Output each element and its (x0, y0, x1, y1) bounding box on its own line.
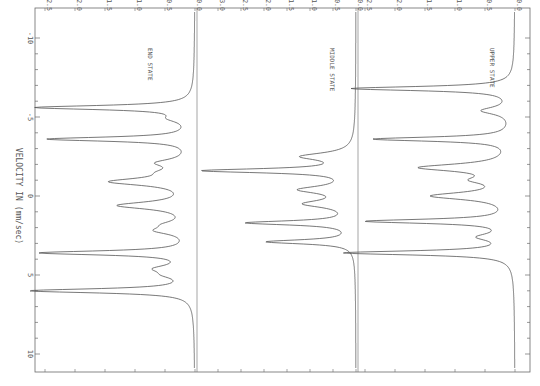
intensity-tick-label: 0.5 (333, 0, 341, 11)
panel-label: MIDDLE STATE (329, 48, 336, 92)
panel-upper-state: 0.00.51.01.52.02.5UPPER STATE (343, 0, 523, 372)
plot-frame (35, 8, 530, 372)
intensity-tick-label: 0.0 (356, 0, 364, 11)
intensity-tick-label: 2.5 (241, 0, 249, 11)
intensity-tick-label: 2.5 (45, 0, 53, 11)
panel-label: END STATE (147, 48, 154, 81)
panel-middle-state: 0.00.51.01.52.02.53.0MIDDLE STATE (202, 0, 364, 372)
intensity-tick-label: 1.0 (310, 0, 318, 11)
intensity-tick-label: 3.0 (218, 0, 226, 11)
velocity-tick-label: -10 (26, 32, 34, 45)
velocity-tick-label: 5 (26, 273, 34, 277)
intensity-tick-label: 1.0 (135, 0, 143, 11)
mossbauer-spectra-chart: -10-50510 0.00.51.01.52.02.5END STATE0.0… (0, 0, 540, 386)
intensity-tick-label: 0.5 (165, 0, 173, 11)
velocity-tick-label: -5 (26, 113, 34, 121)
spectra-panels: 0.00.51.01.52.02.5END STATE0.00.51.01.52… (30, 0, 523, 372)
velocity-axis-label: VELOCITY IN (mm/sec) (14, 148, 23, 244)
intensity-tick-label: 0.0 (515, 0, 523, 11)
velocity-axis: -10-50510 (26, 32, 530, 359)
intensity-tick-label: 0.0 (195, 0, 203, 11)
intensity-tick-label: 2.0 (264, 0, 272, 11)
velocity-tick-label: 10 (26, 350, 34, 358)
intensity-tick-label: 1.5 (425, 0, 433, 11)
intensity-tick-label: 1.5 (105, 0, 113, 11)
intensity-tick-label: 1.0 (455, 0, 463, 11)
intensity-tick-label: 2.0 (75, 0, 83, 11)
spectrum-curve (30, 12, 194, 368)
intensity-tick-label: 1.5 (287, 0, 295, 11)
intensity-tick-label: 2.0 (395, 0, 403, 11)
intensity-tick-label: 0.5 (485, 0, 493, 11)
panel-end-state: 0.00.51.01.52.02.5END STATE (30, 0, 203, 372)
intensity-tick-label: 2.5 (365, 0, 373, 11)
velocity-tick-label: 0 (26, 194, 34, 198)
